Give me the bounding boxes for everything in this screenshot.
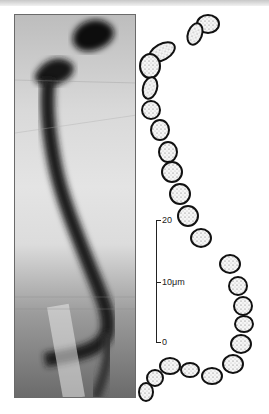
scale-tick-middle — [156, 282, 161, 283]
scale-label-middle: 10μm — [162, 277, 185, 287]
scale-bar — [156, 220, 157, 342]
filament-tracing — [0, 0, 269, 414]
scale-tick-top — [156, 220, 161, 221]
scale-label-bottom: 0 — [162, 337, 167, 347]
scale-label-top: 20 — [162, 215, 172, 225]
scale-tick-bottom — [156, 342, 161, 343]
